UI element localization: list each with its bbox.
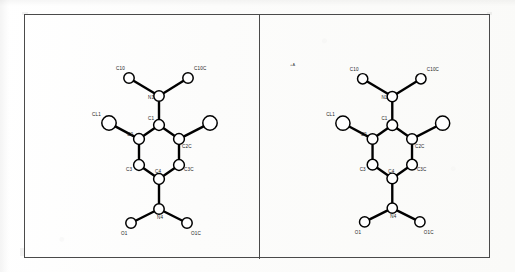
atom-label-cl1: CL1	[92, 112, 101, 117]
atom-label-o1c: O1C	[424, 230, 434, 235]
atom-c2	[134, 134, 145, 145]
atom-c3	[367, 159, 378, 170]
atom-label-o1: O1	[355, 230, 362, 235]
bond-C10-N1	[131, 79, 156, 94]
bond-C10-N1	[365, 80, 390, 95]
atom-c2	[367, 134, 378, 145]
atom-label-c10: C10	[116, 66, 125, 71]
corner-marker-label: +A	[290, 63, 295, 68]
atom-label-c4: C4	[155, 169, 161, 174]
atom-c2c	[174, 134, 185, 145]
atom-label-c2: C2	[127, 132, 133, 137]
bond-N4-O1	[134, 210, 157, 221]
atom-c10c	[416, 74, 426, 84]
atom-label-c3c: C3C	[417, 167, 427, 172]
atom-o1	[126, 218, 136, 228]
atom-label-n1: N1	[381, 95, 387, 100]
atom-label-c3: C3	[360, 167, 366, 172]
atom-o1c	[415, 217, 425, 227]
bond-N4-O1	[367, 209, 390, 220]
figure-frame: C10C10CN1C1CL1C2C2CC3C3CC4N4O1O1C C10C10…	[24, 14, 490, 258]
atom-c10	[124, 73, 134, 83]
atom-label-c10: C10	[350, 67, 359, 72]
atom-n1	[154, 91, 164, 101]
bond-C2C-CL1C	[182, 125, 207, 138]
atom-label-c10c: C10C	[194, 66, 207, 71]
atom-c1	[154, 120, 165, 131]
atom-c2c	[407, 134, 418, 145]
atom-o1	[360, 217, 370, 227]
atom-label-c1: C1	[148, 116, 154, 121]
atom-label-c4: C4	[388, 169, 394, 174]
atom-c10	[358, 74, 368, 84]
panel-right-view: C10C10CN1C1CL1C2C2CC3C3CC4N4O1O1C +A	[260, 15, 491, 259]
atom-label-c1: C1	[381, 116, 387, 121]
atom-c3c	[174, 160, 185, 171]
atom-o1c	[182, 218, 192, 228]
atom-label-c3c: C3C	[184, 167, 194, 172]
atom-cl1	[336, 116, 350, 130]
atom-group	[336, 74, 450, 227]
atom-label-n4: N4	[157, 215, 163, 220]
atom-n4	[154, 204, 164, 214]
atom-n4	[387, 203, 397, 213]
atom-c10c	[183, 73, 193, 83]
atom-label-c2: C2	[361, 132, 367, 137]
panel-left-view: C10C10CN1C1CL1C2C2CC3C3CC4N4O1O1C	[25, 15, 259, 259]
atom-cl1	[102, 116, 116, 130]
bond-N4-O1C	[162, 210, 185, 221]
molecule-svg-left: C10C10CN1C1CL1C2C2CC3C3CC4N4O1O1C	[25, 15, 259, 259]
atom-c3	[134, 160, 145, 171]
atom-label-n4: N4	[390, 214, 396, 219]
atom-label-c2c: C2C	[182, 144, 192, 149]
atom-group	[102, 73, 217, 228]
atom-label-c2c: C2C	[415, 144, 425, 149]
atom-cl1c	[436, 116, 450, 130]
atom-n1	[387, 91, 397, 101]
bond-N4-O1C	[395, 209, 418, 220]
atom-c3c	[407, 159, 418, 170]
atom-c4	[387, 173, 398, 184]
bond-C10C-N1	[395, 80, 419, 95]
atom-label-cl1: CL1	[326, 112, 335, 117]
atom-cl1c	[203, 116, 217, 130]
atom-c4	[154, 174, 165, 185]
molecule-diagram-left: C10C10CN1C1CL1C2C2CC3C3CC4N4O1O1C	[25, 15, 259, 259]
molecule-diagram-right: C10C10CN1C1CL1C2C2CC3C3CC4N4O1O1C	[260, 15, 491, 259]
bond-C10C-N1	[161, 80, 185, 95]
atom-label-o1c: O1C	[191, 231, 201, 236]
atom-label-c3: C3	[126, 167, 132, 172]
atom-label-c10c: C10C	[427, 67, 440, 72]
molecule-svg-right: C10C10CN1C1CL1C2C2CC3C3CC4N4O1O1C	[260, 15, 491, 259]
bond-C2C-CL1C	[415, 125, 440, 138]
atom-label-n1: N1	[148, 95, 154, 100]
atom-c1	[387, 120, 398, 131]
atom-label-o1: O1	[121, 231, 128, 236]
